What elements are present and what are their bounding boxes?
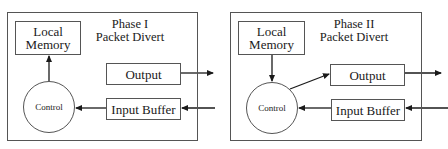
- phase-title-line2: Packet Divert: [95, 31, 165, 44]
- control-label: Control: [258, 103, 286, 113]
- output-label: Output: [349, 69, 385, 82]
- control-node: Control: [246, 82, 298, 134]
- input-buffer-label: Input Buffer: [336, 104, 400, 117]
- phase-title-line2: Packet Divert: [319, 31, 389, 44]
- output-box: Output: [106, 63, 181, 85]
- memory-label-line2: Memory: [26, 38, 71, 51]
- local-memory-box: Local Memory: [238, 21, 305, 55]
- phase-title: Phase I Packet Divert: [95, 18, 165, 43]
- control-node: Control: [23, 81, 75, 133]
- input-buffer-box: Input Buffer: [331, 99, 405, 121]
- phase-title: Phase II Packet Divert: [319, 18, 389, 43]
- local-memory-box: Local Memory: [15, 21, 81, 55]
- phase-title-line1: Phase I: [95, 18, 165, 31]
- output-box: Output: [330, 64, 405, 86]
- input-buffer-box: Input Buffer: [106, 98, 181, 120]
- input-buffer-label: Input Buffer: [111, 103, 175, 116]
- phase-title-line1: Phase II: [319, 18, 389, 31]
- memory-label-line2: Memory: [249, 38, 294, 51]
- output-label: Output: [125, 68, 161, 81]
- control-label: Control: [35, 102, 63, 112]
